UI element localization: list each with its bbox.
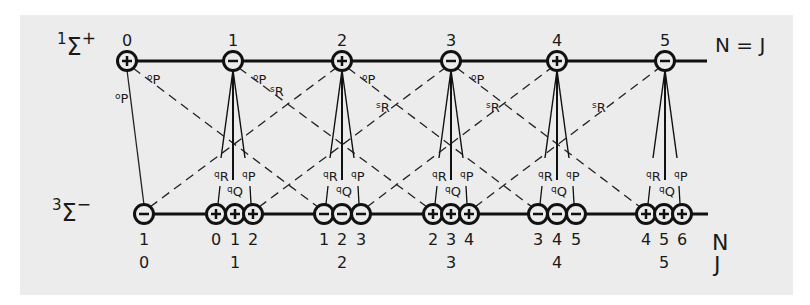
lower-level-n-label: 5	[659, 230, 669, 249]
qp-connector	[466, 186, 467, 204]
qp-branch-label: qP	[460, 169, 474, 184]
op-branch-label: oP	[253, 72, 267, 87]
qp-connector	[250, 186, 251, 204]
lower-level-n-label: 3	[356, 230, 366, 249]
qq-branch-label: qQ	[336, 184, 352, 199]
op-branch-label: oP	[115, 91, 129, 106]
qr-fan-line	[330, 70, 342, 158]
qr-branch-label: qR	[538, 169, 553, 184]
qr-connector	[218, 186, 220, 204]
upper-state-label: 1Σ+	[57, 30, 96, 61]
j-axis-label: J	[714, 252, 721, 277]
qr-connector	[435, 186, 437, 204]
qp-branch-label: qP	[674, 169, 688, 184]
upper-symmetry: +	[82, 28, 96, 48]
qp-fan-line	[342, 70, 354, 158]
op-transition-dashed	[348, 68, 532, 207]
lower-level-n-label: 1	[319, 230, 329, 249]
qp-connector	[358, 186, 359, 204]
lower-level-n-label: 4	[641, 230, 651, 249]
lower-level-n-label: 0	[211, 230, 221, 249]
qp-branch-label: qP	[242, 169, 256, 184]
qp-branch-label: qP	[351, 169, 365, 184]
qr-fan-line	[221, 70, 233, 158]
lower-level-n-label: 1	[139, 230, 149, 249]
upper-level-n-label: 0	[122, 31, 132, 50]
sr-transition-dashed	[150, 68, 336, 207]
lower-level-n-label: 3	[533, 230, 543, 249]
qr-branch-label: qR	[214, 169, 229, 184]
lower-level-n-label: 2	[248, 230, 258, 249]
upper-level-n-label: 2	[337, 31, 347, 50]
lower-sigma: Σ	[62, 199, 77, 227]
qr-fan-line	[653, 70, 665, 158]
qq-branch-label: qQ	[659, 184, 675, 199]
lower-level-j-label: 1	[230, 253, 240, 272]
qp-connector	[573, 186, 574, 204]
sr-branch-label: sR	[270, 84, 284, 99]
upper-level-n-label: 3	[446, 31, 456, 50]
op-branch-label: oP	[471, 72, 485, 87]
lower-level-j-label: 5	[659, 253, 669, 272]
qp-fan-line	[665, 70, 677, 158]
upper-multiplicity: 1	[57, 30, 67, 48]
upper-level-n-label: 5	[660, 31, 670, 50]
qq-branch-label: qQ	[551, 184, 567, 199]
lower-multiplicity: 3	[52, 196, 62, 214]
lower-level-n-label: 4	[464, 230, 474, 249]
qr-connector	[540, 186, 542, 204]
op-transition-solid	[127, 70, 144, 205]
sr-transition-dashed	[259, 68, 445, 207]
lower-symmetry: −	[77, 194, 91, 214]
lower-level-n-label: 4	[552, 230, 562, 249]
energy-level-diagram: oPoPoPoPoPqRqQqPqRqQqPqRqQqPqRqQqPqRqQqP…	[0, 0, 810, 305]
sr-transition-dashed	[475, 68, 659, 207]
lower-state-label: 3Σ−	[52, 196, 91, 227]
lower-level-n-label: 1	[230, 230, 240, 249]
qp-fan-line	[451, 70, 463, 158]
qp-branch-label: qP	[566, 169, 580, 184]
n-equals-j-label: N = J	[715, 33, 765, 57]
op-transition-dashed	[133, 68, 318, 207]
sr-branch-label: sR	[592, 100, 606, 115]
qp-connector	[679, 186, 680, 204]
qq-branch-label: qQ	[227, 184, 243, 199]
op-branch-label: oP	[362, 72, 376, 87]
qr-connector	[648, 186, 650, 204]
lower-level-n-label: 2	[428, 230, 438, 249]
qr-branch-label: qR	[432, 169, 447, 184]
lower-level-j-label: 2	[337, 253, 347, 272]
lower-level-j-label: 4	[552, 253, 562, 272]
qr-fan-line	[545, 70, 557, 158]
lower-level-n-label: 5	[571, 230, 581, 249]
qr-branch-label: qR	[323, 169, 338, 184]
qr-branch-label: qR	[646, 169, 661, 184]
sr-branch-label: sR	[486, 100, 500, 115]
upper-level-n-label: 1	[228, 31, 238, 50]
upper-level-n-label: 4	[552, 31, 562, 50]
upper-sigma: Σ	[67, 33, 82, 61]
lower-level-n-label: 3	[446, 230, 456, 249]
lower-level-j-label: 3	[446, 253, 456, 272]
sr-branch-label: sR	[376, 100, 390, 115]
lower-level-n-label: 6	[677, 230, 687, 249]
qq-branch-label: qQ	[445, 184, 461, 199]
op-branch-label: oP	[147, 72, 161, 87]
qr-connector	[326, 186, 328, 204]
lower-level-n-label: 2	[337, 230, 347, 249]
lower-level-j-label: 0	[139, 253, 149, 272]
